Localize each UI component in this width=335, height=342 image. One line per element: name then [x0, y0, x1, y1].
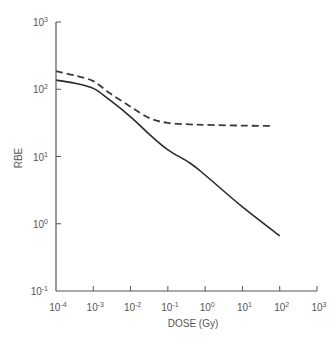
y-tick-label: 102 — [33, 83, 48, 95]
x-tick-label: 100 — [200, 301, 215, 313]
x-tick-label: 10-3 — [87, 301, 104, 313]
x-tick-label: 102 — [274, 301, 289, 313]
x-tick-label: 10-4 — [49, 301, 66, 313]
x-axis-title: DOSE (Gy) — [168, 318, 219, 329]
plot-series — [56, 71, 280, 236]
y-tick-label: 103 — [33, 16, 48, 28]
x-tick-label: 10-1 — [161, 301, 178, 313]
y-axis-title: RBE — [13, 147, 24, 168]
axes: 10-410-310-210-1100101102103 10-11001011… — [31, 16, 327, 313]
y-tick-label: 100 — [33, 218, 48, 230]
y-tick-label: 101 — [33, 151, 48, 163]
rbe-vs-dose-chart: 10-410-310-210-1100101102103 10-11001011… — [0, 0, 335, 342]
x-tick-label: 103 — [311, 301, 326, 313]
y-tick-label: 10-1 — [31, 285, 48, 297]
x-tick-label: 10-2 — [124, 301, 141, 313]
solid-curve — [56, 80, 280, 236]
x-axis-ticks: 10-410-310-210-1100101102103 — [49, 286, 326, 313]
dashed-curve — [56, 71, 274, 126]
x-tick-label: 101 — [237, 301, 252, 313]
